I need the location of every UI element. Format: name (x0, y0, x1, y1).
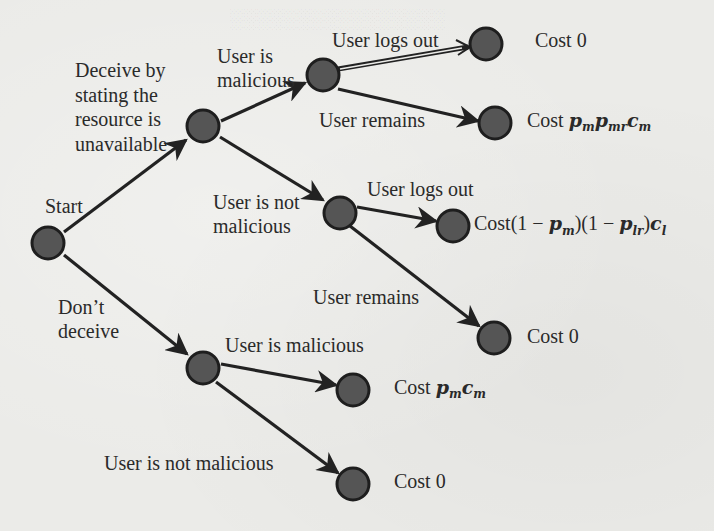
deceive-malicious-label: User is malicious (217, 44, 295, 92)
deceive-label-line: unavailable (75, 132, 167, 157)
not-malicious-label-line: malicious (213, 214, 300, 238)
node-dont-deceive (187, 352, 219, 384)
dont-deceive-malicious-label: User is malicious (225, 334, 364, 357)
cost-label-malicious-logs-out: Cost 0 (535, 29, 587, 52)
node-deceive-malicious (307, 59, 339, 91)
node-deceive (187, 110, 219, 142)
malicious-label-line: User is (217, 44, 295, 68)
cost-label-not-malicious-logs-out: Cost(1 − pm)(1 − plr)cl (474, 212, 666, 243)
cost-prefix: Cost (394, 376, 431, 398)
leaf-deceive-malicious-remains (479, 107, 511, 139)
cost-prefix: Cost (527, 109, 564, 131)
cost-prefix: Cost (474, 212, 511, 234)
malicious-logs-out-label: User logs out (332, 29, 439, 52)
cost-label-malicious-remains: Cost pmpmrcm (527, 109, 651, 139)
leaf-dont-deceive-not-malicious (337, 468, 369, 500)
leaf-deceive-malicious-logs-out (470, 28, 502, 60)
not-malicious-logs-out-label: User logs out (367, 178, 474, 201)
edge-dont-deceive-to-malicious (221, 364, 336, 385)
dont-deceive-label-line: Don’t (58, 295, 119, 319)
cost-label-dont-deceive-not-malicious: Cost 0 (394, 470, 446, 493)
malicious-remains-label: User remains (319, 109, 425, 132)
decision-tree-diagram: ​░░░░░░░░░░░░░░░░ (0, 0, 714, 531)
cost-label-not-malicious-remains: Cost 0 (527, 325, 579, 348)
malicious-label-line: malicious (217, 68, 295, 92)
dont-deceive-branch-label: Don’t deceive (58, 295, 119, 343)
leaf-deceive-not-malicious-logs-out (437, 210, 469, 242)
dont-deceive-label-line: deceive (58, 319, 119, 343)
deceive-label-line: stating the (75, 83, 167, 108)
not-malicious-remains-label: User remains (313, 286, 419, 309)
cost-label-dont-deceive-malicious: Cost pmcm (394, 376, 486, 406)
cost-formula: (1 − pm)(1 − plr)cl (511, 212, 667, 234)
leaf-deceive-not-malicious-remains (478, 322, 510, 354)
deceive-not-malicious-label: User is not malicious (213, 190, 300, 238)
node-start (32, 227, 64, 259)
edge-not-malicious-to-logs-out (357, 207, 436, 221)
deceive-branch-label: Deceive by stating the resource is unava… (75, 58, 167, 156)
node-deceive-not-malicious (324, 197, 356, 229)
leaf-dont-deceive-malicious (337, 374, 369, 406)
deceive-label-line: resource is (75, 107, 167, 132)
deceive-label-line: Deceive by (75, 58, 167, 83)
not-malicious-label-line: User is not (213, 190, 300, 214)
cost-formula: pmcm (436, 376, 486, 398)
start-label: Start (45, 195, 83, 218)
cost-formula: pmpmrcm (569, 109, 652, 131)
dont-deceive-not-malicious-label: User is not malicious (104, 452, 273, 475)
